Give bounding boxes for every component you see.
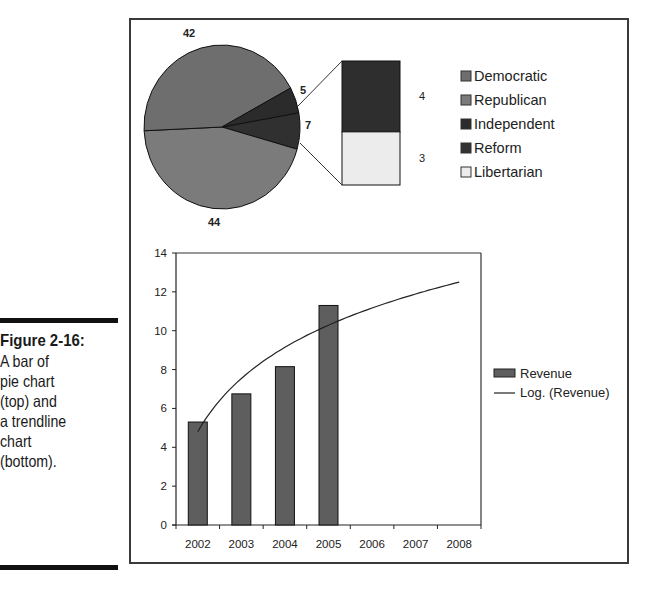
y-tick-label: 4 xyxy=(161,441,168,453)
legend-swatch-libertarian xyxy=(461,167,471,177)
bar-revenue-2002 xyxy=(188,422,207,525)
connector-line xyxy=(300,143,342,185)
x-tick-label: 2008 xyxy=(446,538,472,550)
revenue-bar-chart: 024681012142002200320042005200620072008 xyxy=(154,247,481,550)
bar-of-pie-chart: 42574443 xyxy=(144,27,425,228)
pie-legend: DemocraticRepublicanIndependentReformLib… xyxy=(461,68,555,180)
pie-data-label: 7 xyxy=(305,119,311,131)
x-tick-label: 2007 xyxy=(403,538,429,550)
charts-canvas: 42574443 DemocraticRepublicanIndependent… xyxy=(0,0,656,592)
pie-data-label: 44 xyxy=(208,216,221,228)
y-tick-label: 2 xyxy=(161,480,167,492)
x-tick-label: 2006 xyxy=(359,538,385,550)
legend-label-libertarian: Libertarian xyxy=(474,164,543,180)
legend-swatch-republican xyxy=(461,95,471,105)
legend-label-revenue: Revenue xyxy=(520,366,572,381)
pie-data-label: 5 xyxy=(300,84,306,96)
legend-label-trendline: Log. (Revenue) xyxy=(520,385,610,400)
x-tick-label: 2003 xyxy=(229,538,255,550)
y-tick-label: 14 xyxy=(154,247,167,259)
legend-label-democratic: Democratic xyxy=(474,68,547,84)
x-tick-label: 2002 xyxy=(185,538,211,550)
bar-revenue-2004 xyxy=(275,367,294,525)
legend-label-independent: Independent xyxy=(474,116,555,132)
secondary-bar-label: 4 xyxy=(419,90,425,102)
legend-swatch-revenue xyxy=(494,369,515,377)
pie-data-label: 42 xyxy=(183,27,195,39)
secondary-bar-reform xyxy=(342,61,400,132)
x-tick-label: 2005 xyxy=(316,538,342,550)
x-tick-label: 2004 xyxy=(272,538,298,550)
y-tick-label: 0 xyxy=(161,519,167,531)
y-tick-label: 8 xyxy=(161,364,167,376)
legend-swatch-independent xyxy=(461,119,471,129)
y-tick-label: 12 xyxy=(154,286,167,298)
y-tick-label: 6 xyxy=(161,402,167,414)
legend-swatch-democratic xyxy=(461,71,471,81)
secondary-bar-label: 3 xyxy=(419,152,425,164)
bar-revenue-2005 xyxy=(319,305,338,525)
legend-label-reform: Reform xyxy=(474,140,522,156)
y-tick-label: 10 xyxy=(154,325,167,337)
secondary-bar-libertarian xyxy=(342,132,400,185)
legend-label-republican: Republican xyxy=(474,92,547,108)
legend-swatch-reform xyxy=(461,143,471,153)
bar-revenue-2003 xyxy=(232,394,251,525)
revenue-legend: RevenueLog. (Revenue) xyxy=(494,366,610,400)
